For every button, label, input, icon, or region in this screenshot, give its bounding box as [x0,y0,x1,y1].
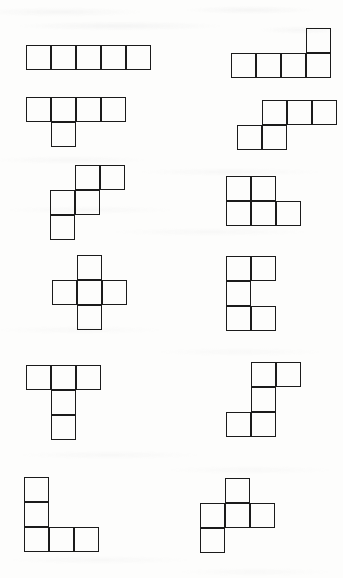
pentomino-cell [51,45,76,70]
pentomino-cell [225,478,250,503]
pentomino-cell [251,306,276,331]
pentomino-cell [276,201,301,226]
pentomino-cell [77,255,102,280]
pentomino-cell [262,125,287,150]
pentomino-cell [312,100,337,125]
pentomino-cell [26,365,51,390]
pentomino-cell [226,412,251,437]
pentomino-cell [262,100,287,125]
pentomino-cell [24,477,49,502]
pentomino-cell [51,365,76,390]
pentomino-cell [226,201,251,226]
pentomino-cell [24,502,49,527]
pentomino-cell [250,503,275,528]
pentomino-cell [251,387,276,412]
pentomino-cell [77,305,102,330]
pentomino-cell [49,527,74,552]
pentomino-cell [256,53,281,78]
pentomino-cell [50,190,75,215]
pentomino-cell [226,281,251,306]
pentomino-cell [24,527,49,552]
pentomino-cell [251,256,276,281]
pentomino-cell [51,122,76,147]
pentomino-cell [26,97,51,122]
pentomino-cell [225,503,250,528]
pentomino-cell [74,527,99,552]
pentomino-cell [306,53,331,78]
pentomino-cell [287,100,312,125]
pentomino-cell [276,362,301,387]
pentomino-cell [237,125,262,150]
pentomino-cell [231,53,256,78]
pentomino-cell [251,412,276,437]
pentomino-page [0,0,343,578]
pentomino-cell [77,280,102,305]
pentomino-cell [251,362,276,387]
pentomino-cell [200,528,225,553]
pentomino-cell [251,176,276,201]
pentomino-cell [51,390,76,415]
pentomino-cell [100,165,125,190]
pentomino-cell [226,256,251,281]
pentomino-cell [76,365,101,390]
pentomino-cell [52,280,77,305]
pentomino-cell [102,280,127,305]
pentomino-cell [226,176,251,201]
pentomino-cell [51,415,76,440]
pentomino-cell [101,45,126,70]
pentomino-cell [50,215,75,240]
pentomino-cell [75,165,100,190]
pentomino-cell [251,201,276,226]
pentomino-cell [101,97,126,122]
pentomino-cell [75,190,100,215]
pentomino-cell [200,503,225,528]
pentomino-cell [226,306,251,331]
pentomino-cell [51,97,76,122]
pentomino-cell [281,53,306,78]
pentomino-cell [26,45,51,70]
pentomino-cell [126,45,151,70]
pentomino-cell [76,45,101,70]
pentomino-cell [306,28,331,53]
pentomino-cell [76,97,101,122]
